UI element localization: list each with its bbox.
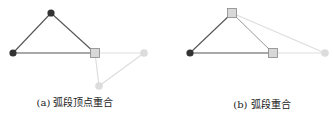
vertex-dark: [9, 49, 16, 56]
edge-line: [232, 13, 325, 53]
vertex-dark: [47, 9, 54, 16]
shared-vertex-square: [91, 49, 100, 58]
edge-line: [51, 13, 95, 53]
figure-b: [186, 9, 328, 58]
edge-line: [99, 53, 144, 86]
vertex-light: [95, 82, 103, 90]
shared-vertex-square: [228, 9, 237, 18]
edge-line: [190, 13, 232, 53]
edge-line: [95, 53, 99, 86]
vertex-light: [140, 49, 148, 57]
shared-vertex-square: [269, 49, 278, 58]
vertex-dark: [186, 49, 193, 56]
figure-a: [9, 9, 147, 89]
caption-b: (b) 弧段重合: [233, 96, 290, 111]
caption-a: (a) 弧段顶点重合: [37, 94, 114, 109]
vertex-light: [321, 49, 329, 57]
edge-line: [232, 13, 273, 53]
edge-line: [13, 13, 51, 53]
